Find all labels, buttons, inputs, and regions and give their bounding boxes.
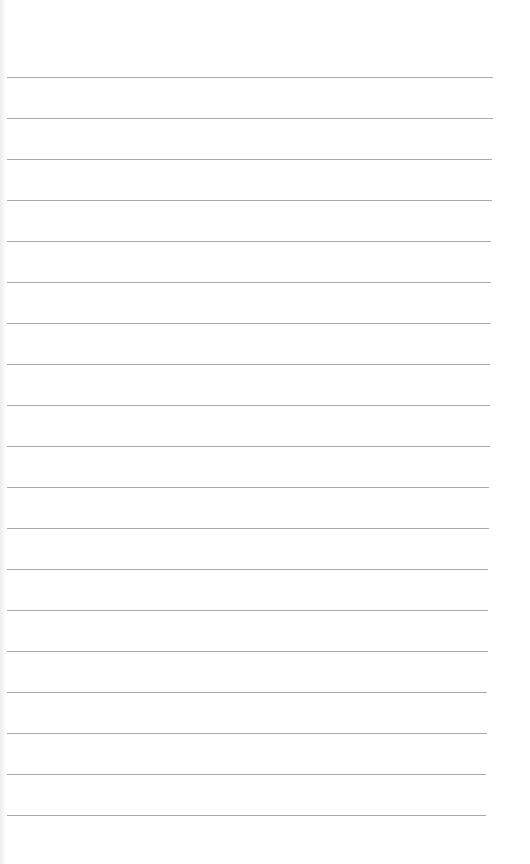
ruled-line bbox=[7, 118, 493, 119]
ruled-line bbox=[7, 692, 487, 693]
ruled-line bbox=[7, 815, 486, 816]
ruled-line bbox=[7, 200, 492, 201]
ruled-line bbox=[7, 323, 491, 324]
ruled-line bbox=[7, 733, 487, 734]
ruled-line bbox=[7, 364, 490, 365]
lined-paper-page bbox=[0, 0, 530, 864]
ruled-line bbox=[7, 159, 492, 160]
ruled-line bbox=[7, 241, 491, 242]
page-edge-shadow bbox=[0, 0, 6, 864]
ruled-line bbox=[7, 528, 489, 529]
ruled-line bbox=[7, 405, 490, 406]
ruled-line bbox=[7, 282, 491, 283]
ruled-line bbox=[7, 446, 490, 447]
ruled-line bbox=[7, 569, 488, 570]
ruled-line bbox=[7, 610, 488, 611]
ruled-line bbox=[7, 651, 488, 652]
ruled-line bbox=[7, 77, 493, 78]
ruled-line bbox=[7, 487, 489, 488]
ruled-line bbox=[7, 774, 486, 775]
